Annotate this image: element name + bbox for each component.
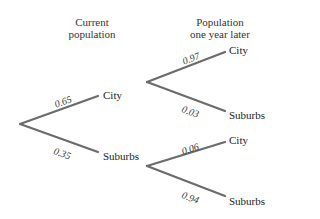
header-current-population: Current population bbox=[52, 16, 132, 40]
node-suburbs-city: City bbox=[229, 134, 248, 146]
header-current-line1: Current bbox=[52, 16, 132, 28]
header-population-later: Population one year later bbox=[170, 16, 270, 40]
header-later-line1: Population bbox=[170, 16, 270, 28]
node-suburbs-suburbs: Suburbs bbox=[229, 195, 265, 207]
node-city-level1: City bbox=[103, 89, 122, 101]
node-city-suburbs: Suburbs bbox=[229, 109, 265, 121]
node-suburbs-level1: Suburbs bbox=[103, 150, 139, 162]
node-city-city: City bbox=[229, 44, 248, 56]
header-later-line2: one year later bbox=[170, 28, 270, 40]
header-current-line2: population bbox=[52, 28, 132, 40]
